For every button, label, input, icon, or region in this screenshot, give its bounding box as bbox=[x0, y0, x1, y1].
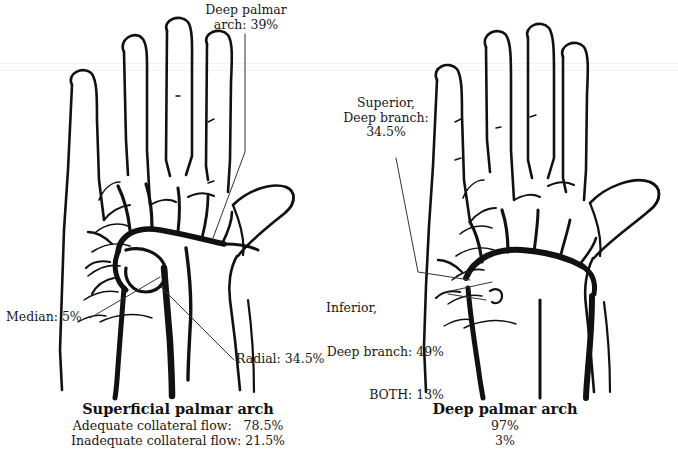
label-inferior-line1: Inferior, bbox=[326, 301, 444, 316]
caption-left-line2: Inadequate collateral flow: 21.5% bbox=[28, 433, 328, 448]
label-median: Median: 5% bbox=[6, 310, 82, 325]
caption-left-line1: Adequate collateral flow: 78.5% bbox=[28, 418, 328, 433]
left-hand-outline bbox=[60, 18, 294, 392]
caption-right-title: Deep palmar arch bbox=[390, 400, 620, 418]
label-superior-deep-branch: Superior, Deep branch: 34.5% bbox=[338, 96, 434, 140]
label-deep-palmar-arch-left: Deep palmar arch: 39% bbox=[186, 3, 306, 32]
label-radial: Radial: 34.5% bbox=[236, 352, 325, 367]
caption-right-line1: 97% bbox=[390, 418, 620, 433]
caption-superficial-palmar-arch: Superficial palmar arch Adequate collate… bbox=[28, 400, 328, 448]
caption-left-title: Superficial palmar arch bbox=[28, 400, 328, 418]
right-hand-arteries bbox=[436, 210, 596, 398]
palmar-arch-figure: Deep palmar arch: 39% Median: 5% Radial:… bbox=[0, 0, 678, 463]
label-inferior-line2: Deep branch: 49% bbox=[326, 345, 444, 360]
caption-right-line2: 3% bbox=[390, 433, 620, 448]
caption-deep-palmar-arch: Deep palmar arch 97% 3% bbox=[390, 400, 620, 448]
